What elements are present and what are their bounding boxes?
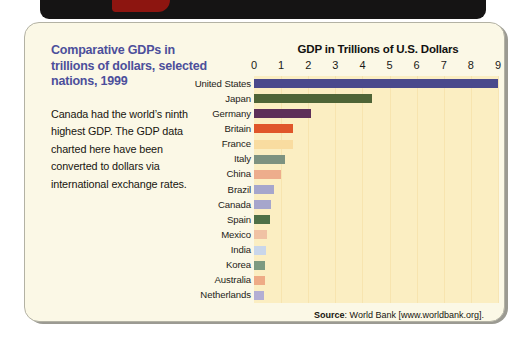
- x-axis-tick-3: 3: [325, 59, 345, 71]
- x-axis-tick-9: 9: [488, 59, 505, 71]
- bar-spain: [254, 215, 270, 224]
- category-label-italy: Italy: [175, 153, 251, 164]
- category-label-mexico: Mexico: [175, 229, 251, 240]
- x-axis-tick-row: 0123456789: [254, 59, 502, 73]
- category-label-japan: Japan: [175, 93, 251, 104]
- x-axis-tick-0: 0: [244, 59, 264, 71]
- category-label-australia: Australia: [175, 274, 251, 285]
- scan-red-marking: [112, 0, 170, 12]
- category-label-britain: Britain: [175, 123, 251, 134]
- x-axis-tick-1: 1: [271, 59, 291, 71]
- x-axis-tick-5: 5: [380, 59, 400, 71]
- category-label-brazil: Brazil: [175, 184, 251, 195]
- gridline-6: [417, 76, 418, 303]
- gridline-5: [390, 76, 391, 303]
- source-note: Source: World Bank [www.worldbank.org].: [25, 310, 484, 320]
- gridline-3: [335, 76, 336, 303]
- category-label-germany: Germany: [175, 108, 251, 119]
- x-axis-tick-6: 6: [407, 59, 427, 71]
- category-label-united-states: United States: [175, 78, 251, 89]
- category-label-spain: Spain: [175, 214, 251, 225]
- bar-netherlands: [254, 291, 264, 300]
- gridline-4: [362, 76, 363, 303]
- bar-italy: [254, 155, 285, 164]
- bar-china: [254, 170, 281, 179]
- category-label-china: China: [175, 168, 251, 179]
- chart-axis-title: GDP in Trillions of U.S. Dollars: [253, 43, 503, 55]
- bar-united-states: [254, 79, 498, 88]
- source-value: : World Bank [www.worldbank.org].: [345, 310, 484, 320]
- x-axis-tick-4: 4: [352, 59, 372, 71]
- source-label: Source: [314, 310, 345, 320]
- bar-france: [254, 140, 293, 149]
- x-axis-tick-7: 7: [434, 59, 454, 71]
- category-label-france: France: [175, 138, 251, 149]
- bar-britain: [254, 124, 293, 133]
- x-axis-tick-8: 8: [461, 59, 481, 71]
- plot-area: [254, 76, 498, 303]
- bar-korea: [254, 261, 265, 270]
- bar-mexico: [254, 230, 267, 239]
- bar-brazil: [254, 185, 274, 194]
- category-label-canada: Canada: [175, 199, 251, 210]
- chart-card: Comparative GDPs in trillions of dollars…: [24, 22, 505, 322]
- bar-australia: [254, 276, 265, 285]
- x-axis-tick-2: 2: [298, 59, 318, 71]
- category-label-korea: Korea: [175, 259, 251, 270]
- gridline-9: [498, 76, 499, 303]
- gridline-7: [444, 76, 445, 303]
- bar-japan: [254, 94, 372, 103]
- category-label-column: United StatesJapanGermanyBritainFranceIt…: [175, 76, 251, 303]
- scan-edge-strip: [40, 0, 486, 19]
- category-label-india: India: [175, 244, 251, 255]
- bar-india: [254, 246, 266, 255]
- bar-germany: [254, 109, 311, 118]
- bar-canada: [254, 200, 271, 209]
- gridline-8: [471, 76, 472, 303]
- category-label-netherlands: Netherlands: [175, 289, 251, 300]
